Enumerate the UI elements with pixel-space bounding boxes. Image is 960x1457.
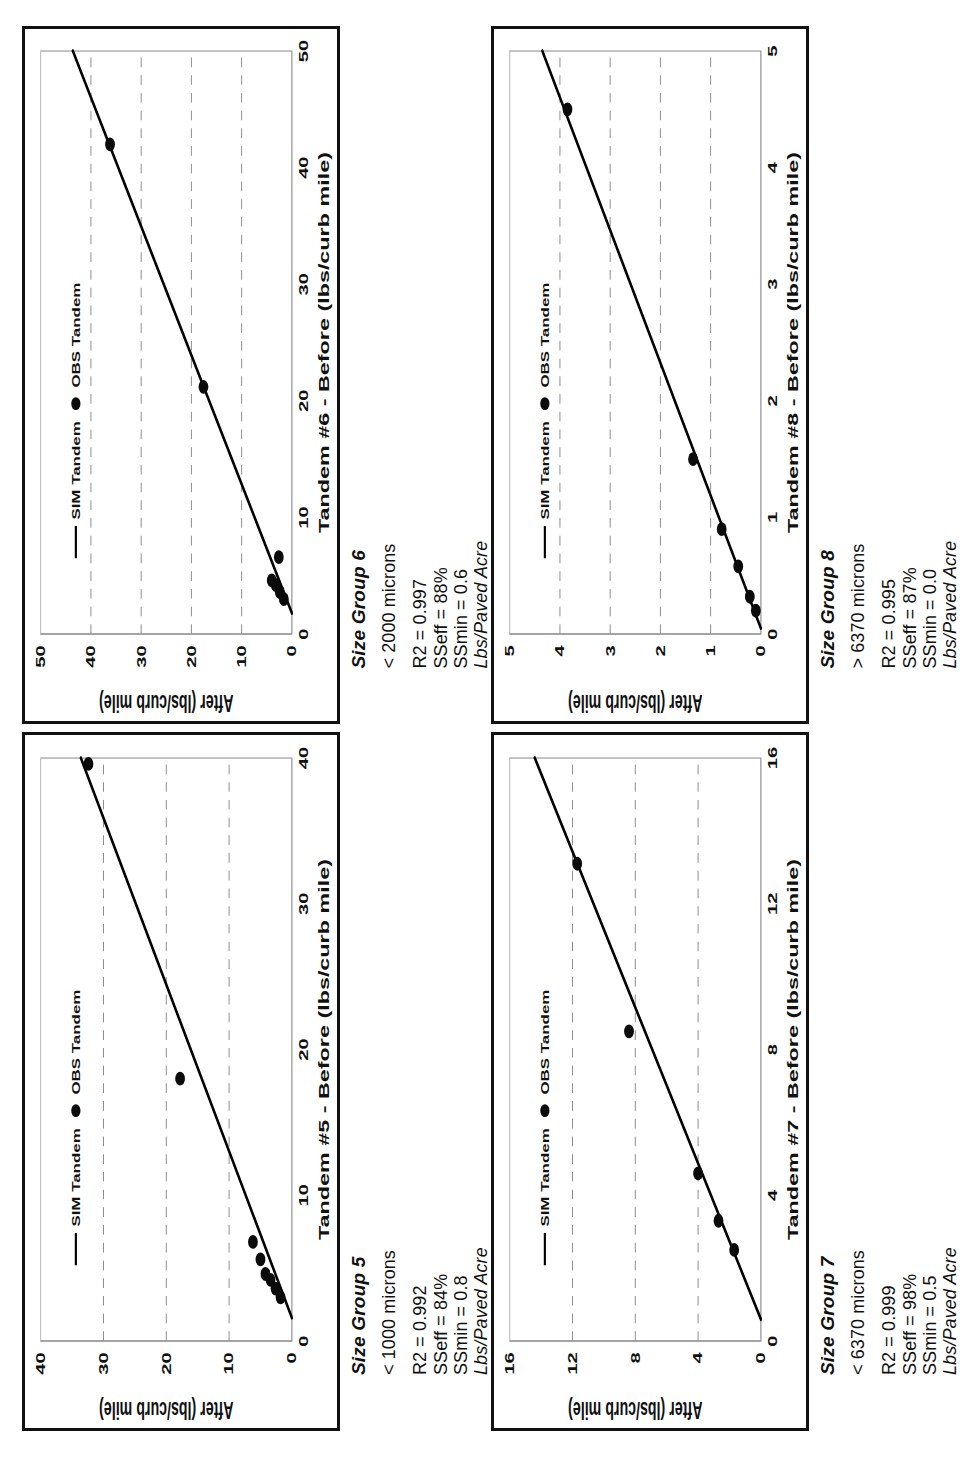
svg-text:After (lbs/curb mile): After (lbs/curb mile) [568,691,702,716]
svg-text:12: 12 [766,893,780,915]
panel-title: Size Group 5 [348,733,369,1376]
scatter-plot-size-group-6: 0102030405001020304050Tandem #6 - Before… [25,29,337,722]
svg-text:5: 5 [503,646,517,657]
r2-stat: R2 = 0.997 [410,26,430,669]
ssmin-stat: SSmin = 0.6 [451,26,471,669]
svg-text:4: 4 [692,1351,706,1363]
svg-text:OBS Tandem: OBS Tandem [70,990,82,1095]
svg-text:40: 40 [84,646,98,668]
svg-text:0: 0 [297,1335,311,1346]
svg-text:4: 4 [766,162,780,174]
svg-text:10: 10 [222,1352,236,1374]
panel-title: Size Group 6 [348,26,369,669]
svg-text:Tandem #8 - Before (lbs/curb m: Tandem #8 - Before (lbs/curb mile) [786,153,801,534]
units-label: Lbs/Paved Acre [940,733,960,1376]
figure-cell-size-group-7: 04812160481216Tandem #7 - Before (lbs/cu… [491,733,960,1432]
svg-text:0: 0 [766,629,780,640]
svg-text:SIM Tandem: SIM Tandem [539,422,551,520]
size-range-label: < 1000 microns [379,733,399,1376]
sseff-stat: SSeff = 88% [431,26,451,669]
svg-text:2: 2 [654,646,668,657]
svg-text:0: 0 [297,629,311,640]
svg-text:20: 20 [185,646,199,668]
svg-text:Tandem #5 - Before (lbs/curb m: Tandem #5 - Before (lbs/curb mile) [317,859,332,1240]
size-range-label: < 2000 microns [379,26,399,669]
units-label: Lbs/Paved Acre [471,26,491,669]
svg-text:4: 4 [553,645,567,657]
caption-size-group-7: Size Group 7 < 6370 microns R2 = 0.999 S… [817,733,960,1432]
svg-text:0: 0 [766,1335,780,1346]
svg-text:20: 20 [160,1352,174,1374]
svg-text:40: 40 [297,747,311,769]
svg-text:SIM Tandem: SIM Tandem [70,422,82,520]
ssmin-stat: SSmin = 0.5 [920,733,940,1376]
svg-text:0: 0 [285,646,299,657]
chart-area-size-group-5: 010203040010203040Tandem #5 - Before (lb… [25,736,337,1429]
svg-text:0: 0 [754,1352,768,1363]
units-label: Lbs/Paved Acre [940,26,960,669]
r2-stat: R2 = 0.999 [879,733,899,1376]
svg-text:8: 8 [766,1044,780,1055]
caption-size-group-8: Size Group 8 > 6370 microns R2 = 0.995 S… [817,26,960,725]
svg-text:OBS Tandem: OBS Tandem [539,283,551,388]
svg-text:SIM Tandem: SIM Tandem [70,1128,82,1226]
figure-cell-size-group-6: 0102030405001020304050Tandem #6 - Before… [22,26,491,725]
size-range-label: > 6370 microns [848,26,868,669]
chart-panel-size-group-8: 012345012345Tandem #8 - Before (lbs/curb… [491,26,809,725]
svg-text:10: 10 [235,646,249,668]
svg-text:10: 10 [297,1184,311,1206]
panel-title: Size Group 7 [817,733,838,1376]
svg-text:40: 40 [34,1352,48,1374]
r2-stat: R2 = 0.992 [410,733,430,1376]
svg-text:After (lbs/curb mile): After (lbs/curb mile) [99,691,233,716]
svg-text:After (lbs/curb mile): After (lbs/curb mile) [99,1397,233,1422]
chart-panel-size-group-7: 04812160481216Tandem #7 - Before (lbs/cu… [491,733,809,1432]
svg-text:30: 30 [97,1352,111,1374]
svg-text:30: 30 [297,274,311,296]
ssmin-stat: SSmin = 0.0 [920,26,940,669]
svg-text:20: 20 [297,390,311,412]
caption-size-group-6: Size Group 6 < 2000 microns R2 = 0.997 S… [348,26,491,725]
size-range-label: < 6370 microns [848,733,868,1376]
svg-text:0: 0 [285,1352,299,1363]
svg-text:5: 5 [766,46,780,57]
svg-text:3: 3 [604,646,618,657]
svg-text:3: 3 [766,279,780,290]
svg-text:40: 40 [297,157,311,179]
svg-text:SIM Tandem: SIM Tandem [539,1128,551,1226]
svg-text:50: 50 [297,40,311,62]
svg-text:30: 30 [135,646,149,668]
svg-text:OBS Tandem: OBS Tandem [539,990,551,1095]
chart-panel-size-group-6: 0102030405001020304050Tandem #6 - Before… [22,26,340,725]
svg-text:2: 2 [766,396,780,407]
figure-cell-size-group-5: 010203040010203040Tandem #5 - Before (lb… [22,733,491,1432]
svg-text:16: 16 [503,1352,517,1374]
units-label: Lbs/Paved Acre [471,733,491,1376]
chart-area-size-group-8: 012345012345Tandem #8 - Before (lbs/curb… [494,29,806,722]
ssmin-stat: SSmin = 0.8 [451,733,471,1376]
svg-text:50: 50 [34,646,48,668]
svg-text:OBS Tandem: OBS Tandem [70,283,82,388]
svg-text:After (lbs/curb mile): After (lbs/curb mile) [568,1397,702,1422]
svg-text:8: 8 [629,1352,643,1363]
svg-text:1: 1 [704,646,718,657]
chart-panel-size-group-5: 010203040010203040Tandem #5 - Before (lb… [22,733,340,1432]
svg-text:20: 20 [297,1038,311,1060]
svg-text:30: 30 [297,893,311,915]
chart-area-size-group-7: 04812160481216Tandem #7 - Before (lbs/cu… [494,736,806,1429]
panel-title: Size Group 8 [817,26,838,669]
svg-text:Tandem #7 - Before (lbs/curb m: Tandem #7 - Before (lbs/curb mile) [786,859,801,1240]
sseff-stat: SSeff = 98% [900,733,920,1376]
svg-text:12: 12 [566,1352,580,1374]
scatter-plot-size-group-8: 012345012345Tandem #8 - Before (lbs/curb… [494,29,806,722]
sseff-stat: SSeff = 87% [900,26,920,669]
sseff-stat: SSeff = 84% [431,733,451,1376]
scatter-plot-size-group-5: 010203040010203040Tandem #5 - Before (lb… [25,736,337,1429]
chart-area-size-group-6: 0102030405001020304050Tandem #6 - Before… [25,29,337,722]
caption-size-group-5: Size Group 5 < 1000 microns R2 = 0.992 S… [348,733,491,1432]
svg-text:Tandem #6 - Before (lbs/curb m: Tandem #6 - Before (lbs/curb mile) [317,153,332,534]
r2-stat: R2 = 0.995 [879,26,899,669]
svg-text:4: 4 [766,1189,780,1201]
